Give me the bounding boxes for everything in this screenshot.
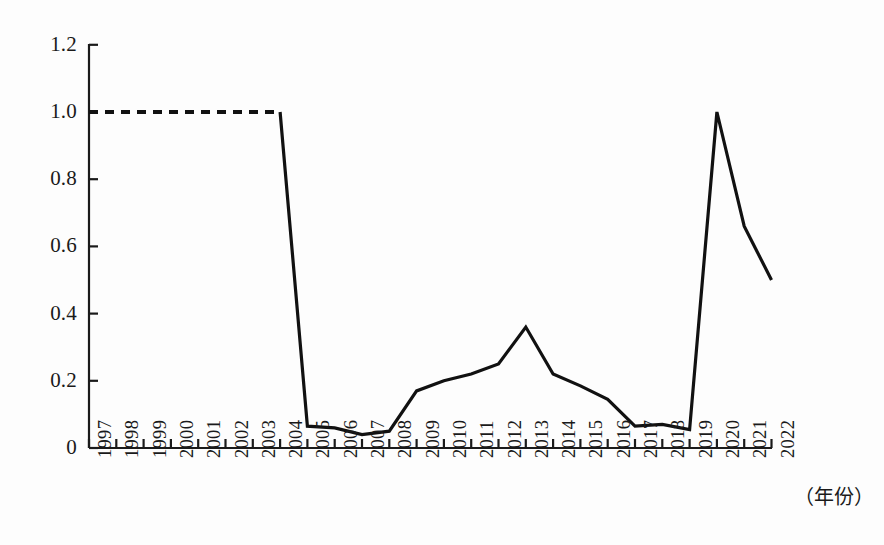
x-tick-label: 2003 [260,420,279,458]
x-tick-label: 2018 [669,420,688,458]
x-tick-label: 2008 [396,420,415,458]
x-tick-label: 2016 [615,420,634,458]
x-tick-label: 2021 [751,420,770,458]
x-tick-label: 2001 [205,420,224,458]
data-line-solid [280,112,771,435]
chart-figure: 00.20.40.60.81.01.2 19971998199920002001… [0,0,884,545]
x-tick-label: 1999 [151,420,170,458]
x-tick-label: 2015 [587,420,606,458]
x-tick-label: 2013 [533,420,552,458]
x-tick-label: 2004 [287,420,306,458]
y-tick-label: 0.8 [50,168,77,189]
x-tick-label: 2014 [560,420,579,458]
x-tick-label: 2005 [314,420,333,458]
y-tick-label: 0 [66,437,77,458]
x-tick-label: 2022 [779,420,798,458]
x-tick-label: 2019 [697,420,716,458]
y-tick-label: 0.2 [50,370,77,391]
x-tick-label: 1997 [96,420,115,458]
x-tick-label: 2006 [342,420,361,458]
x-tick-label: 2020 [724,420,743,458]
x-tick-label: 2009 [424,420,443,458]
y-tick-label: 0.4 [50,303,77,324]
x-tick-label: 2007 [369,420,388,458]
x-tick-label: 2017 [642,420,661,458]
x-tick-label: 2012 [506,420,525,458]
x-tick-label: 2010 [451,420,470,458]
x-tick-label: 2002 [233,420,252,458]
x-tick-label: 1998 [123,420,142,458]
x-axis-title: （年份） [794,487,874,507]
x-tick-label: 2000 [178,420,197,458]
x-tick-label: 2011 [478,420,497,458]
y-tick-label: 1.0 [50,101,77,122]
y-tick-label: 0.6 [50,235,77,256]
y-tick-label: 1.2 [50,34,77,55]
line-chart-canvas [0,0,884,545]
y-tick-marks [89,45,98,448]
